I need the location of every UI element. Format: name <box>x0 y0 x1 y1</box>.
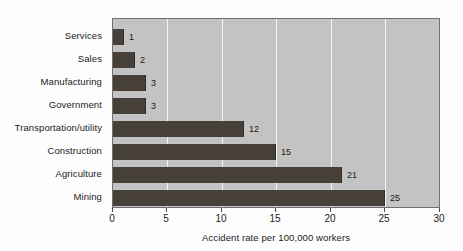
x-tick-mark <box>330 208 331 212</box>
bar-row: 1 <box>113 25 439 48</box>
bar-value-label: 1 <box>129 32 134 42</box>
x-tick-label: 0 <box>109 213 115 224</box>
bar[interactable] <box>113 190 385 206</box>
bar[interactable] <box>113 98 146 114</box>
plot-area: 1 2 3 3 12 15 <box>112 18 440 208</box>
bar[interactable] <box>113 167 342 183</box>
bar[interactable] <box>113 52 135 68</box>
bar-row: 3 <box>113 94 439 117</box>
bar[interactable] <box>113 121 244 137</box>
bar-row: 21 <box>113 163 439 186</box>
bar-value-label: 12 <box>249 124 259 134</box>
x-tick-mark <box>112 208 113 212</box>
bar-row: 15 <box>113 140 439 163</box>
category-label: Services <box>0 24 107 47</box>
x-tick-label: 20 <box>324 213 335 224</box>
x-tick-mark <box>384 208 385 212</box>
bar-row: 2 <box>113 48 439 71</box>
category-label: Government <box>0 93 107 116</box>
category-label: Sales <box>0 47 107 70</box>
x-tick-mark <box>439 208 440 212</box>
x-tick-label: 30 <box>433 213 444 224</box>
bar-value-label: 3 <box>151 101 156 111</box>
x-axis: 0 5 10 15 20 25 30 <box>112 208 440 213</box>
x-axis-title: Accident rate per 100,000 workers <box>112 232 440 243</box>
bar[interactable] <box>113 144 276 160</box>
bar-value-label: 2 <box>140 55 145 65</box>
bar-value-label: 21 <box>347 170 357 180</box>
bar-value-label: 3 <box>151 78 156 88</box>
bar-value-label: 25 <box>390 193 400 203</box>
x-tick-label: 10 <box>215 213 226 224</box>
category-label: Agriculture <box>0 162 107 185</box>
bar-row: 3 <box>113 71 439 94</box>
bar[interactable] <box>113 29 124 45</box>
category-label: Mining <box>0 185 107 208</box>
x-tick-mark <box>275 208 276 212</box>
bar-row: 25 <box>113 186 439 209</box>
category-label: Transportation/utility <box>0 116 107 139</box>
bars-layer: 1 2 3 3 12 15 <box>113 25 439 209</box>
bar[interactable] <box>113 75 146 91</box>
x-tick-label: 15 <box>269 213 280 224</box>
x-tick-label: 5 <box>163 213 169 224</box>
y-axis-category-labels: Services Sales Manufacturing Government … <box>0 24 107 208</box>
bar-row: 12 <box>113 117 439 140</box>
x-tick-mark <box>221 208 222 212</box>
category-label: Manufacturing <box>0 70 107 93</box>
bar-chart-figure: Services Sales Manufacturing Government … <box>0 0 463 251</box>
bar-value-label: 15 <box>281 147 291 157</box>
x-tick-mark <box>166 208 167 212</box>
x-tick-label: 25 <box>378 213 389 224</box>
category-label: Construction <box>0 139 107 162</box>
